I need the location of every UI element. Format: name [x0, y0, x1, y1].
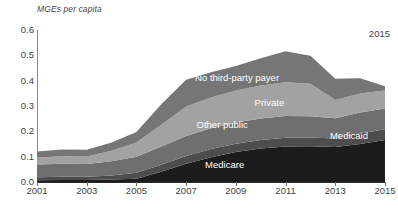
x-axis-tick-2009: 2009: [225, 185, 246, 196]
x-axis-tick-2015: 2015: [374, 185, 395, 196]
stacked-area-svg: [37, 30, 385, 182]
x-axis-tickmark-2013: [335, 182, 336, 186]
y-axis-tick-0.4: 0.4: [0, 76, 34, 86]
x-axis-tick-2011: 2011: [275, 185, 295, 196]
x-axis-tickmark-2005: [136, 182, 137, 186]
x-axis-tick-2005: 2005: [126, 185, 147, 196]
y-axis-tick-0.6: 0.6: [0, 25, 34, 35]
x-axis-tickmark-2015: [385, 182, 386, 186]
plot-area: [37, 30, 385, 182]
y-axis-tick-0.1: 0.1: [0, 152, 34, 162]
chart-container: MGEs per capita 2015 0.00.10.20.30.40.50…: [0, 0, 398, 212]
x-axis-tickmark-2007: [186, 182, 187, 186]
x-axis-tick-labels: 20012003200520072009201120132015: [37, 185, 385, 207]
y-axis-tick-0.2: 0.2: [0, 127, 34, 137]
x-axis-tickmark-2009: [236, 182, 237, 186]
y-axis-title: MGEs per capita: [37, 4, 102, 14]
x-axis-tick-2013: 2013: [325, 185, 346, 196]
y-axis-tick-labels: 0.00.10.20.30.40.50.6: [0, 30, 34, 182]
x-axis-tick-2001: 2001: [26, 185, 47, 196]
x-axis-tickmark-2003: [87, 182, 88, 186]
x-axis-tick-2003: 2003: [76, 185, 97, 196]
x-axis-line: [37, 182, 385, 183]
x-axis-tickmark-2001: [37, 182, 38, 186]
x-axis-tickmark-2011: [286, 182, 287, 186]
y-axis-tick-0.3: 0.3: [0, 101, 34, 111]
y-axis-tick-0.5: 0.5: [0, 51, 34, 61]
x-axis-tick-2007: 2007: [176, 185, 197, 196]
